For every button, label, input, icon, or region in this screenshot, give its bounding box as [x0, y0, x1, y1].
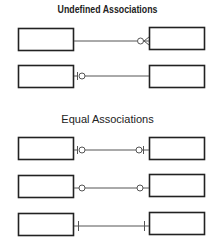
association-line-zero-or-one	[74, 72, 149, 80]
association-line-zero-or-many	[74, 37, 149, 45]
association-diagram	[0, 0, 215, 246]
entity-box-right	[150, 213, 205, 235]
association-line-equal-zero-or-one	[74, 146, 149, 154]
entity-box-right	[150, 175, 205, 197]
entity-box-left	[19, 214, 74, 236]
entity-box-left	[19, 176, 74, 198]
association-line-equal-zero	[74, 185, 149, 191]
entity-box-right	[150, 28, 205, 50]
entity-box-right	[150, 138, 205, 160]
association-line-equal-one	[74, 221, 149, 231]
entity-box-left	[19, 29, 74, 51]
entity-box-right	[150, 66, 205, 88]
entity-box-left	[19, 138, 74, 160]
entity-box-left	[19, 66, 74, 88]
